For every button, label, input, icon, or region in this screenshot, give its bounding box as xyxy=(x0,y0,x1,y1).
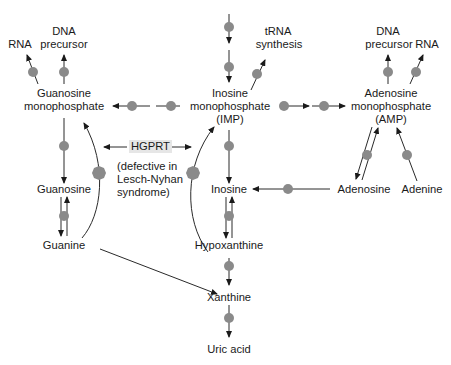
enzyme-note-line3: syndrome) xyxy=(117,186,170,199)
node-hypoxanthine: Hypoxanthine xyxy=(189,239,269,252)
node-xanthine: Xanthine xyxy=(194,291,264,304)
node-gmp-line1: Guanosine xyxy=(14,87,114,100)
product-rna-left: RNA xyxy=(8,38,32,51)
product-trna-line1: tRNA xyxy=(253,25,303,38)
hgprt-block-right xyxy=(186,166,200,180)
enzyme-hgprt-label: HGPRT xyxy=(129,140,172,153)
node-gmp-line2: monophosphate xyxy=(14,100,114,113)
node-guanosine: Guanosine xyxy=(24,183,104,196)
node-uric-acid: Uric acid xyxy=(194,343,264,356)
node-amp-line3: (AMP) xyxy=(341,113,441,126)
node-imp-line2: monophosphate xyxy=(180,100,280,113)
node-imp-line3: (IMP) xyxy=(180,113,280,126)
node-amp-line2: monophosphate xyxy=(341,100,441,113)
node-guanine: Guanine xyxy=(29,239,99,252)
node-amp-line1: Adenosine xyxy=(341,87,441,100)
product-dna-right-line1: DNA xyxy=(366,25,410,38)
hgprt-block-left xyxy=(92,166,106,180)
node-adenosine: Adenosine xyxy=(331,183,397,196)
node-imp-line1: Inosine xyxy=(180,87,280,100)
purine-metabolism-diagram: RNA DNA precursor tRNA synthesis DNA pre… xyxy=(0,0,451,365)
product-trna-line2: synthesis xyxy=(252,38,306,51)
enzyme-dots xyxy=(28,22,421,323)
product-dna-left-line2: precursor xyxy=(37,38,91,51)
product-dna-right-line2: precursor xyxy=(362,38,416,51)
product-dna-left-line1: DNA xyxy=(42,25,86,38)
node-inosine: Inosine xyxy=(199,183,259,196)
enzyme-note-line2: Lesch-Nyhan xyxy=(117,173,183,186)
enzyme-note-line1: (defective in xyxy=(117,160,177,173)
product-rna-right: RNA xyxy=(414,38,440,51)
node-adenine: Adenine xyxy=(397,183,447,196)
